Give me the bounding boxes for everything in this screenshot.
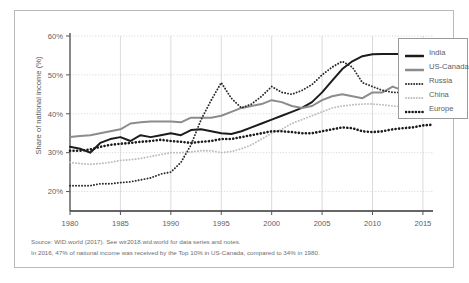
svg-text:1980: 1980 <box>62 219 79 228</box>
x-axis-ticks: 19801985199019952000200520102015 <box>62 211 432 228</box>
legend-swatch-icon <box>405 75 424 85</box>
figure-panel: 20%30%40%50%60% 198019851990199520002005… <box>14 10 454 268</box>
svg-text:20%: 20% <box>48 187 63 196</box>
chart-plot-area: 20%30%40%50%60% 198019851990199520002005… <box>15 11 453 233</box>
grid-lines <box>70 36 433 211</box>
legend-label: Russia <box>429 76 452 85</box>
legend-swatch-icon <box>405 103 424 113</box>
legend-item-europe[interactable]: Europe <box>399 101 467 115</box>
legend-item-russia[interactable]: Russia <box>399 73 467 87</box>
svg-text:30%: 30% <box>48 148 63 157</box>
svg-text:2015: 2015 <box>414 219 431 228</box>
series-line-india <box>70 54 433 153</box>
legend-label: India <box>429 48 445 57</box>
y-axis-label: Share of national income (%) <box>34 31 43 181</box>
chart-legend: IndiaUS-CanadaRussiaChinaEurope <box>398 38 468 119</box>
legend-swatch-icon <box>405 61 424 71</box>
y-axis-ticks: 20%30%40%50%60% <box>48 32 70 197</box>
svg-text:1995: 1995 <box>213 219 230 228</box>
svg-text:1990: 1990 <box>162 219 179 228</box>
legend-label: US-Canada <box>429 62 469 71</box>
svg-text:50%: 50% <box>48 71 63 80</box>
axis-lines <box>70 33 433 211</box>
svg-text:60%: 60% <box>48 32 63 41</box>
svg-text:40%: 40% <box>48 110 63 119</box>
svg-text:2005: 2005 <box>314 219 331 228</box>
series-line-us-canada <box>70 87 433 138</box>
legend-item-china[interactable]: China <box>399 87 467 101</box>
legend-label: China <box>429 90 449 99</box>
legend-swatch-icon <box>405 89 424 99</box>
legend-item-us-canada[interactable]: US-Canada <box>399 59 467 73</box>
series-line-russia <box>70 61 433 185</box>
caption-source-line: Source: WID.world (2017). See wir2018.wi… <box>31 237 431 248</box>
legend-label: Europe <box>429 104 454 113</box>
line-chart: 20%30%40%50%60% 198019851990199520002005… <box>15 11 453 233</box>
svg-text:2010: 2010 <box>364 219 381 228</box>
svg-text:1985: 1985 <box>112 219 129 228</box>
caption-note-line: In 2016, 47% of national income was rece… <box>31 248 431 259</box>
series-line-china <box>70 104 433 164</box>
legend-swatch-icon <box>405 47 424 57</box>
data-series <box>70 54 433 186</box>
figure-caption: Source: WID.world (2017). See wir2018.wi… <box>31 237 431 258</box>
svg-text:2000: 2000 <box>263 219 280 228</box>
legend-item-india[interactable]: India <box>399 45 467 59</box>
